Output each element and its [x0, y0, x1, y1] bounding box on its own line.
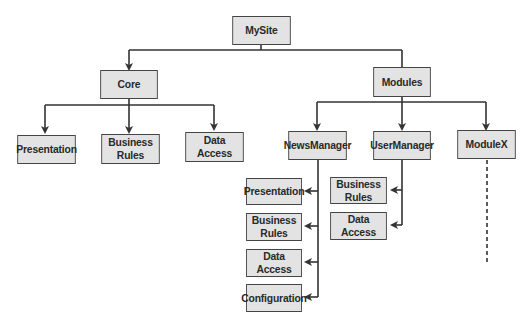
node-modules: Modules [373, 67, 431, 97]
node-um-business-rules: Business Rules [330, 177, 387, 204]
node-newsmanager: NewsManager [288, 131, 347, 160]
node-modulex: ModuleX [457, 130, 516, 159]
node-core-data-access: Data Access [185, 132, 244, 162]
node-nm-configuration: Configuration [246, 284, 302, 312]
diagram-canvas: MySite Core Modules Presentation Busines… [0, 0, 530, 324]
node-core-presentation: Presentation [17, 135, 76, 164]
node-mysite: MySite [232, 16, 291, 45]
node-um-data-access: Data Access [330, 212, 387, 240]
node-nm-presentation: Presentation [246, 178, 302, 205]
node-core-business-rules: Business Rules [101, 134, 160, 164]
node-core: Core [100, 70, 158, 99]
node-nm-data-access: Data Access [246, 249, 302, 277]
node-nm-business-rules: Business Rules [246, 213, 302, 241]
node-usermanager: UserManager [373, 131, 431, 160]
